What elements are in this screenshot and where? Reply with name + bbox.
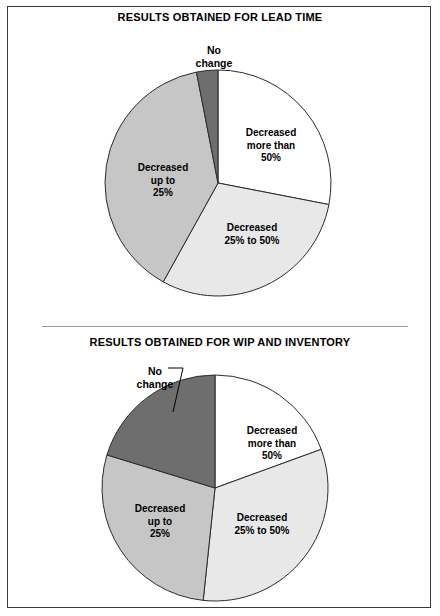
slice-label-line: 25% to 50% (192, 235, 312, 248)
slice-label-line: up to (103, 175, 223, 188)
slice-label-line: Decreased (103, 162, 223, 175)
slice-label-line: more than (211, 140, 331, 153)
slice-label-line: Decreased (211, 127, 331, 140)
slice-label-line: change (95, 378, 215, 391)
slice-label-line: 50% (212, 450, 332, 463)
slice-label-lead-time-decreased-more-than-50: Decreasedmore than50% (211, 127, 331, 165)
slice-label-line: No (154, 44, 274, 57)
slice-label-line: change (154, 57, 274, 70)
slice-label-line: 25% (100, 528, 220, 541)
slice-label-line: 25% to 50% (202, 525, 322, 538)
slice-label-lead-time-no-change: Nochange (154, 44, 274, 69)
slice-label-line: 25% (103, 187, 223, 200)
slice-label-line: up to (100, 516, 220, 529)
figure-page: RESULTS OBTAINED FOR LEAD TIME RESULTS O… (0, 0, 440, 616)
slice-label-line: Decreased (202, 512, 322, 525)
slice-label-line: 50% (211, 152, 331, 165)
slice-label-line: Decreased (192, 222, 312, 235)
slice-label-wip-and-inventory-no-change: Nochange (95, 365, 215, 390)
slice-label-lead-time-decreased-25-to-50: Decreased25% to 50% (192, 222, 312, 247)
slice-label-wip-and-inventory-decreased-25-to-50: Decreased25% to 50% (202, 512, 322, 537)
slice-label-line: Decreased (212, 425, 332, 438)
slice-label-wip-and-inventory-decreased-more-than-50: Decreasedmore than50% (212, 425, 332, 463)
slice-label-line: No (95, 365, 215, 378)
slice-label-wip-and-inventory-decreased-up-to-25: Decreasedup to25% (100, 503, 220, 541)
slice-label-line: Decreased (100, 503, 220, 516)
slice-label-lead-time-decreased-up-to-25: Decreasedup to25% (103, 162, 223, 200)
slice-label-line: more than (212, 438, 332, 451)
